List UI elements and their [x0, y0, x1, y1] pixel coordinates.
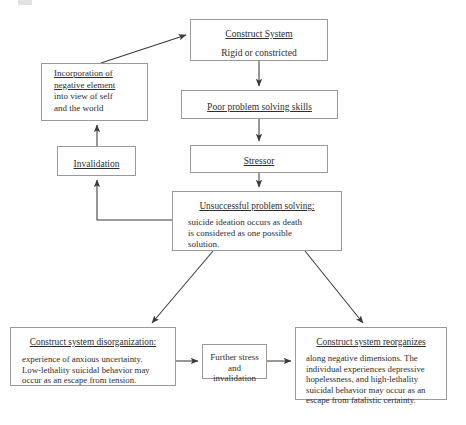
node-reorganizes-content: Construct system reorganizes along negat… — [296, 328, 446, 410]
edge-incorporation-to-construct-system — [101, 35, 186, 63]
node-stressor[interactable]: Stressor — [190, 145, 328, 173]
node-poor-problem-solving-heading-text: Poor problem solving skills — [188, 102, 331, 112]
node-reorganizes-line4: suicidal behavior may occur as an — [306, 385, 440, 396]
node-disorganization-content: Construct system disorganization: experi… — [11, 328, 175, 390]
node-stressor-heading-text: Stressor — [197, 156, 321, 166]
node-unsuccessful-content: Unsuccessful problem solving: suicide id… — [173, 192, 341, 254]
node-unsuccessful-heading: Unsuccessful problem solving: — [179, 201, 335, 211]
node-disorganization-heading: Construct system disorganization: — [17, 337, 169, 347]
node-invalidation-content: Invalidation — [58, 147, 135, 173]
node-construct-system[interactable]: Construct System Rigid or constricted — [190, 19, 328, 61]
node-unsuccessful-line1: suicide ideation occurs as death — [188, 217, 335, 228]
node-incorporation-line2: negative element — [54, 80, 141, 92]
node-reorganizes-line1: along negative dimensions. The — [306, 353, 440, 364]
edge-unsuccessful-to-invalidation — [97, 180, 172, 220]
node-further-stress-line2: and — [209, 363, 260, 374]
node-further-stress-line3: invalidation — [209, 373, 260, 384]
node-reorganizes-heading-text: Construct system reorganizes — [302, 337, 440, 347]
node-disorganization-line3: occur as an escape from tension. — [22, 375, 169, 386]
node-disorganization-line2: Low-lethality suicidal behavior may — [22, 365, 169, 376]
node-reorganizes-line2: individual experiences depressive — [306, 364, 440, 375]
node-disorganization-body: experience of anxious uncertainty. Low-l… — [17, 354, 169, 386]
node-unsuccessful-line3: solution. — [188, 239, 335, 250]
node-construct-system-line2: Rigid or constricted — [197, 48, 321, 58]
flowchart-canvas: Construct System Rigid or constricted In… — [0, 0, 466, 425]
node-further-stress[interactable]: Further stress and invalidation — [202, 344, 267, 379]
node-invalidation-heading: Invalidation — [64, 159, 129, 169]
node-stressor-content: Stressor — [191, 146, 327, 170]
edge-unsuccessful-to-disorganization — [152, 251, 213, 323]
node-reorganizes-line5: escape from fatalistic certainty. — [306, 395, 440, 406]
node-poor-problem-solving-content: Poor problem solving skills — [182, 91, 337, 116]
node-construct-system-reorganizes[interactable]: Construct system reorganizes along negat… — [295, 327, 447, 400]
node-unsuccessful-body: suicide ideation occurs as death is cons… — [179, 217, 335, 250]
node-disorganization-heading-text: Construct system disorganization: — [17, 337, 169, 347]
node-construct-system-content: Construct System Rigid or constricted — [191, 20, 327, 62]
edge-unsuccessful-to-reorganizes — [305, 251, 363, 323]
node-construct-system-disorganization[interactable]: Construct system disorganization: experi… — [10, 327, 176, 386]
node-reorganizes-heading: Construct system reorganizes — [302, 337, 440, 347]
node-reorganizes-body: along negative dimensions. The individua… — [302, 353, 440, 406]
node-invalidation[interactable]: Invalidation — [57, 146, 136, 176]
node-unsuccessful-problem-solving[interactable]: Unsuccessful problem solving: suicide id… — [172, 191, 342, 251]
node-incorporation-content: Incorporation of negative element into v… — [42, 64, 147, 118]
node-disorganization-line1: experience of anxious uncertainty. — [22, 354, 169, 365]
scan-artifact-mark — [18, 0, 32, 5]
node-reorganizes-line3: hopelessness, and high-lethality — [306, 374, 440, 385]
node-unsuccessful-heading-text: Unsuccessful problem solving: — [179, 201, 335, 211]
node-poor-problem-solving[interactable]: Poor problem solving skills — [181, 90, 338, 119]
node-further-stress-content: Further stress and invalidation — [203, 348, 266, 388]
node-further-stress-line1: Further stress — [209, 352, 260, 363]
node-incorporation-line4: and the world — [54, 103, 141, 115]
node-unsuccessful-line2: is considered as one possible — [188, 228, 335, 239]
node-construct-system-heading: Construct System — [197, 29, 321, 39]
node-invalidation-heading-text: Invalidation — [64, 159, 129, 169]
node-construct-system-heading-text: Construct System — [197, 29, 321, 39]
node-incorporation-line1: Incorporation of — [54, 68, 141, 80]
node-poor-problem-solving-heading: Poor problem solving skills — [188, 102, 331, 112]
node-stressor-heading: Stressor — [197, 156, 321, 166]
node-incorporation[interactable]: Incorporation of negative element into v… — [41, 63, 148, 121]
node-incorporation-line3: into view of self — [54, 91, 141, 103]
